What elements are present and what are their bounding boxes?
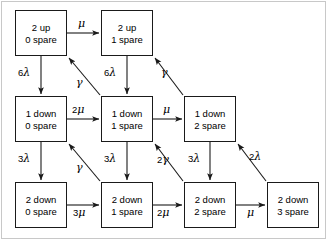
state-label-line1: 1 down (112, 108, 143, 119)
rate-label-1down1-to-2up0: γ (76, 78, 83, 88)
state-box-2down-3spare[interactable]: 2 down 3 spare (267, 182, 319, 228)
state-box-1down-2spare[interactable]: 1 down 2 spare (184, 96, 236, 142)
rate-symbol: λ (109, 66, 116, 79)
state-label-line1: 2 down (26, 194, 57, 205)
rate-label-2down1-to-2down2: 2μ (157, 208, 169, 218)
state-label-line2: 0 spare (25, 206, 57, 217)
rate-symbol: μ (77, 103, 84, 116)
state-label-line2: 1 spare (111, 34, 143, 45)
rate-label-1down0-to-1down1: 2μ (72, 105, 84, 115)
rate-symbol: γ (162, 153, 169, 166)
rate-symbol: μ (162, 206, 169, 219)
state-label-line1: 2 up (118, 22, 137, 33)
state-label-line1: 1 down (195, 108, 226, 119)
state-label-line1: 2 down (112, 194, 143, 205)
state-label-line2: 3 spare (277, 206, 309, 217)
rate-label-2down2-to-2down3: μ (247, 208, 254, 218)
rate-symbol: μ (247, 206, 254, 219)
state-label-line2: 1 spare (111, 120, 143, 131)
rate-symbol: λ (109, 152, 116, 165)
state-label-line2: 2 spare (194, 120, 226, 131)
rate-label-2up1-to-1down1: 6λ (104, 68, 116, 78)
rate-label-1down0-to-2down0: 3λ (18, 154, 30, 164)
rate-symbol: γ (76, 76, 83, 89)
rate-symbol: μ (78, 206, 85, 219)
rate-label-2down0-to-2down1: 3μ (73, 208, 85, 218)
rate-label-1down2-to-2up1: γ (161, 68, 168, 78)
state-label-line2: 0 spare (25, 34, 57, 45)
rate-symbol: λ (23, 152, 30, 165)
arrow-1down2-to-2up1 (155, 58, 183, 95)
markov-state-diagram: 2 up 0 spare 2 up 1 spare 1 down 0 spare… (0, 0, 328, 241)
state-label-line2: 0 spare (25, 120, 57, 131)
rate-label-2up0-to-1down0: 6λ (18, 68, 30, 78)
rate-symbol: μ (163, 103, 170, 116)
rate-symbol: λ (193, 152, 200, 165)
rate-symbol: μ (78, 17, 85, 30)
state-box-1down-1spare[interactable]: 1 down 1 spare (101, 96, 153, 142)
rate-label-1down1-to-2down1: 3λ (104, 154, 116, 164)
arrow-2down3-to-1down2 (238, 144, 266, 181)
rate-label-2down3-to-1down2: 2λ (249, 152, 261, 162)
state-label-line1: 2 down (278, 194, 309, 205)
rate-label-2up0-to-2up1: μ (78, 19, 85, 29)
rate-label-1down1-to-1down2: μ (163, 105, 170, 115)
rate-label-2down1-to-1down0: γ (76, 163, 83, 173)
state-box-1down-0spare[interactable]: 1 down 0 spare (15, 96, 67, 142)
rate-symbol: λ (254, 150, 261, 163)
rate-symbol: γ (76, 161, 83, 174)
state-box-2up-1spare[interactable]: 2 up 1 spare (101, 10, 153, 56)
rate-symbol: λ (23, 66, 30, 79)
arrow-2down1-to-1down0 (69, 144, 100, 181)
rate-symbol: γ (161, 66, 168, 79)
state-box-2up-0spare[interactable]: 2 up 0 spare (15, 10, 67, 56)
state-label-line1: 2 up (32, 22, 51, 33)
state-label-line1: 2 down (195, 194, 226, 205)
state-label-line2: 2 spare (194, 206, 226, 217)
state-label-line1: 1 down (26, 108, 57, 119)
rate-label-1down2-to-2down2: 3λ (188, 154, 200, 164)
state-box-2down-1spare[interactable]: 2 down 1 spare (101, 182, 153, 228)
state-box-2down-2spare[interactable]: 2 down 2 spare (184, 182, 236, 228)
rate-label-2down2-to-1down1: 2γ (157, 155, 169, 165)
state-box-2down-0spare[interactable]: 2 down 0 spare (15, 182, 67, 228)
arrow-1down1-to-2up0 (69, 58, 100, 95)
state-label-line2: 1 spare (111, 206, 143, 217)
